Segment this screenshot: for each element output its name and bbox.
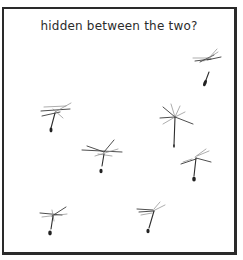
dandelion-seed-icon: [137, 202, 165, 233]
dandelion-seed-icon: [82, 140, 122, 173]
dandelion-seed-icon: [41, 103, 71, 132]
dandelion-seed-icon: [40, 207, 67, 235]
dandelion-seed-icon: [160, 104, 193, 148]
dandelion-seeds-illustration: [0, 0, 243, 260]
dandelion-seed-icon: [181, 149, 211, 182]
dandelion-seed-icon: [193, 49, 221, 87]
